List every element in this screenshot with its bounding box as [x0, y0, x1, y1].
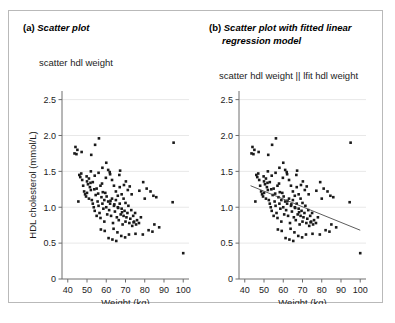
scatter-point: [89, 186, 92, 189]
scatter-point: [277, 228, 280, 231]
scatter-point: [97, 205, 100, 208]
x-tick-label: 80: [140, 285, 150, 295]
y-tick-label: 0: [228, 274, 233, 284]
scatter-point: [124, 236, 127, 239]
panel-b: (b) Scatter plot with fitted linear regr…: [197, 11, 384, 304]
scatter-point: [118, 174, 121, 177]
scatter-point: [121, 211, 124, 214]
scatter-point: [143, 197, 146, 200]
scatter-point: [111, 238, 114, 241]
scatter-point: [265, 177, 268, 180]
scatter-point: [304, 189, 307, 192]
scatter-point: [267, 154, 270, 157]
scatter-point: [293, 231, 296, 234]
scatter-point: [293, 216, 296, 219]
scatter-point: [73, 152, 76, 155]
scatter-point: [120, 235, 123, 238]
scatter-point: [301, 202, 304, 205]
scatter-point: [315, 189, 318, 192]
scatter-point: [297, 193, 300, 196]
scatter-point: [125, 216, 128, 219]
scatter-point: [311, 212, 314, 215]
scatter-point: [308, 225, 311, 228]
scatter-point: [117, 194, 120, 197]
scatter-point: [285, 171, 288, 174]
scatter-point: [128, 185, 131, 188]
y-tick-label: 2.0: [43, 131, 56, 141]
scatter-point: [313, 219, 316, 222]
scatter-point: [274, 192, 277, 195]
x-tick-label: 60: [101, 285, 111, 295]
scatter-point: [97, 192, 100, 195]
y-tick-label: 0.5: [43, 238, 56, 248]
scatter-point: [294, 219, 297, 222]
scatter-point: [296, 169, 299, 172]
scatter-point: [335, 226, 338, 229]
x-tick-label: 100: [353, 285, 368, 295]
scatter-point: [291, 210, 294, 213]
scatter-point: [328, 230, 331, 233]
scatter-point: [309, 215, 312, 218]
scatter-point: [319, 181, 322, 184]
scatter-point: [94, 144, 97, 147]
scatter-point: [305, 185, 308, 188]
scatter-point: [93, 210, 96, 213]
scatter-point: [96, 200, 99, 203]
scatter-point: [104, 192, 107, 195]
scatter-point: [282, 161, 285, 164]
scatter-point: [86, 192, 89, 195]
scatter-point: [289, 222, 292, 225]
scatter-point: [266, 186, 269, 189]
scatter-point: [76, 149, 79, 152]
scatter-point: [108, 209, 111, 212]
scatter-point: [107, 237, 110, 240]
scatter-point: [300, 184, 303, 187]
scatter-point: [270, 188, 273, 191]
scatter-point: [348, 201, 351, 204]
y-tick-label: 2.5: [220, 95, 233, 105]
scatter-point: [295, 186, 298, 189]
scatter-point: [299, 197, 302, 200]
scatter-point: [113, 184, 116, 187]
scatter-point: [132, 221, 135, 224]
scatter-point: [319, 233, 322, 236]
scatter-point: [108, 171, 111, 174]
scatter-point: [134, 232, 137, 235]
scatter-point: [118, 202, 121, 205]
scatter-point: [290, 203, 293, 206]
scatter-point: [134, 212, 137, 215]
scatter-point: [147, 229, 150, 232]
scatter-point: [315, 222, 318, 225]
scatter-point: [124, 202, 127, 205]
scatter-point: [292, 240, 295, 243]
scatter-point: [116, 216, 119, 219]
scatter-point: [86, 180, 89, 183]
scatter-point: [257, 172, 260, 175]
y-tick-label: 2.0: [220, 131, 233, 141]
scatter-point: [299, 215, 302, 218]
scatter-point: [254, 200, 257, 203]
scatter-point: [80, 172, 83, 175]
scatter-point: [302, 216, 305, 219]
scatter-point: [294, 207, 297, 210]
scatter-point: [250, 152, 253, 155]
scatter-point: [268, 199, 271, 202]
scatter-point: [117, 207, 120, 210]
scatter-point: [288, 238, 291, 241]
scatter-point: [297, 235, 300, 238]
scatter-point: [265, 197, 268, 200]
scatter-point: [115, 240, 118, 243]
scatter-point: [155, 196, 158, 199]
scatter-point: [297, 207, 300, 210]
scatter-point: [322, 187, 325, 190]
scatter-point: [288, 179, 291, 182]
scatter-point: [270, 210, 273, 213]
scatter-point: [278, 166, 281, 169]
scatter-point: [129, 217, 132, 220]
scatter-point: [138, 189, 141, 192]
scatter-point: [105, 177, 108, 180]
scatter-point: [111, 179, 114, 182]
scatter-point: [88, 197, 91, 200]
scatter-point: [292, 199, 295, 202]
y-tick-label: 1.0: [220, 203, 233, 213]
